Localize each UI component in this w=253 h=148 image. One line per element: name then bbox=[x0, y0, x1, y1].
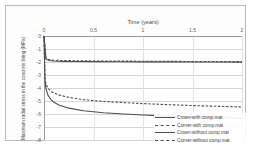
legend-item[interactable]: Crown-without comp.mat bbox=[155, 129, 252, 136]
legend-item-label: Corner-with comp.mat bbox=[177, 123, 223, 128]
x-tick-label: 0.5 bbox=[90, 28, 97, 33]
legend-item[interactable]: Corner-without comp.mat bbox=[155, 137, 252, 144]
y-axis-title: Maximum radial stress in the concrete li… bbox=[19, 36, 29, 140]
x-tick-label: 2 bbox=[241, 28, 244, 33]
series-line bbox=[44, 36, 242, 107]
y-tick-label: -2 bbox=[37, 60, 41, 65]
y-tick-label: -8 bbox=[37, 138, 41, 143]
chart-legend: Crown-with comp.matCorner-with comp.matC… bbox=[154, 113, 252, 145]
legend-item-label: Corner-without comp.mat bbox=[177, 138, 230, 143]
legend-item-label: Crown-without comp.mat bbox=[177, 130, 229, 135]
x-tick-label: 1 bbox=[142, 28, 145, 33]
series-line bbox=[44, 36, 242, 62]
y-axis-title-text: Maximum radial stress in the concrete li… bbox=[22, 36, 27, 139]
legend-item[interactable]: Crown-with comp.mat bbox=[155, 114, 252, 121]
x-tick-label: 1.5 bbox=[189, 28, 196, 33]
y-tick-label: -7 bbox=[37, 125, 41, 130]
legend-key-icon bbox=[155, 130, 175, 136]
legend-key-icon bbox=[155, 122, 175, 128]
chart-title: Time (years) bbox=[44, 19, 242, 25]
legend-key-icon bbox=[155, 115, 175, 121]
y-tick-label: -4 bbox=[37, 86, 41, 91]
legend-key-icon bbox=[155, 137, 175, 143]
series-line bbox=[44, 36, 242, 118]
legend-item-label: Crown-with comp.mat bbox=[177, 115, 222, 120]
x-tick-label: 0 bbox=[43, 28, 46, 33]
legend-item[interactable]: Corner-with comp.mat bbox=[155, 122, 252, 129]
chart-frame: Time (years) Maximum radial stress in th… bbox=[5, 5, 246, 141]
y-tick-label: 0 bbox=[38, 34, 41, 39]
series-line bbox=[44, 36, 242, 62]
y-tick-label: -3 bbox=[37, 73, 41, 78]
y-tick-label: -5 bbox=[37, 99, 41, 104]
y-tick-label: -6 bbox=[37, 112, 41, 117]
y-tick-label: -1 bbox=[37, 47, 41, 52]
